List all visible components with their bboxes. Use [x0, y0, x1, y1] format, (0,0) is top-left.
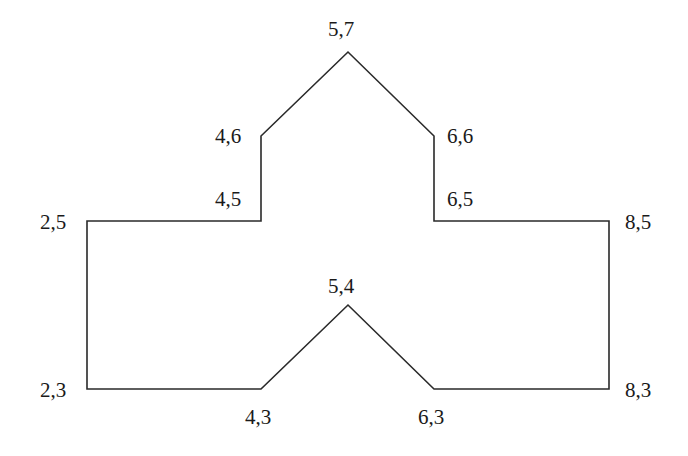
vertex-label: 6,3 [418, 405, 444, 429]
vertex-label: 2,5 [40, 210, 66, 234]
vertex-label: 6,6 [447, 124, 473, 148]
vertex-label: 8,3 [625, 378, 651, 402]
polygon-outline [87, 52, 609, 389]
vertex-label: 5,7 [328, 17, 354, 41]
vertex-labels: 2,54,54,65,76,66,58,58,36,35,44,32,3 [40, 17, 651, 429]
vertex-label: 5,4 [328, 274, 355, 298]
vertex-label: 4,3 [245, 405, 271, 429]
vertex-label: 4,6 [215, 124, 241, 148]
vertex-label: 8,5 [625, 210, 651, 234]
vertex-label: 4,5 [215, 187, 241, 211]
vertex-label: 6,5 [447, 187, 473, 211]
vertex-label: 2,3 [40, 378, 66, 402]
polygon-diagram: 2,54,54,65,76,66,58,58,36,35,44,32,3 [0, 0, 688, 456]
